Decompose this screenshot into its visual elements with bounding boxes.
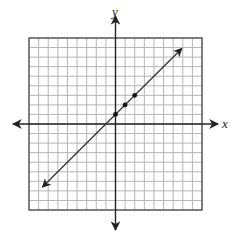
plotted-line <box>42 49 181 188</box>
data-point <box>113 112 118 117</box>
coordinate-plane <box>0 0 238 232</box>
data-point <box>123 102 128 107</box>
y-axis-label: y <box>112 4 118 20</box>
x-axis-label: x <box>222 116 228 132</box>
data-point <box>132 93 137 98</box>
